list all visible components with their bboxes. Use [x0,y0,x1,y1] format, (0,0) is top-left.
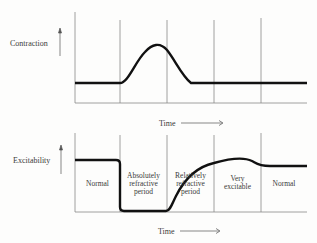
phase-relatively-refractive: Relatively refractive period [167,172,214,196]
phase-normal-1: Normal [75,180,120,188]
excitability-axis-label: Excitability [13,156,50,165]
top-time-arrow-icon [181,121,223,126]
contraction-arrow-icon [59,28,62,56]
phase-very-excitable: Very excitable [214,175,261,191]
excitability-arrow-icon [60,145,63,174]
phase-normal-2: Normal [261,180,307,188]
contraction-curve [75,45,307,83]
top-time-label: Time [159,119,176,128]
bottom-time-label: Time [158,227,175,236]
bottom-time-arrow-icon [180,229,220,234]
contraction-axis-label: Contraction [10,39,48,48]
phase-absolutely-refractive: Absolutely refractive period [120,172,167,196]
top-panel-axes [75,12,307,103]
